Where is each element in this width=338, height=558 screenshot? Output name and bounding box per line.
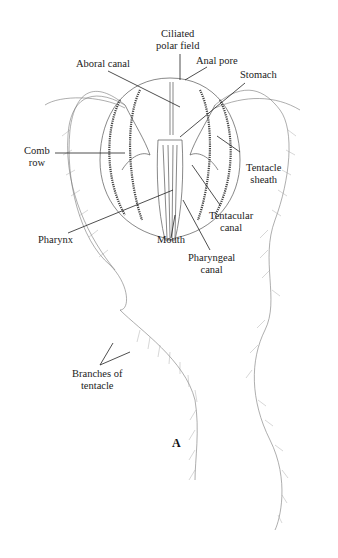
label-line: Tentacular	[209, 210, 253, 222]
right-tentacle	[215, 90, 289, 530]
label-ciliated-polar-field: Ciliated polar field	[156, 28, 199, 52]
label-branches-of-tentacle: Branches of tentacle	[72, 368, 122, 392]
label-line: sheath	[246, 174, 281, 186]
panel-label: A	[172, 436, 181, 451]
label-line: Branches of	[72, 368, 122, 380]
label-stomach: Stomach	[240, 69, 277, 81]
label-comb-row: Comb row	[24, 145, 50, 169]
label-line: Pharyngeal	[188, 252, 235, 264]
label-line: tentacle	[72, 380, 122, 392]
label-line: canal	[188, 264, 235, 276]
ctenophore-diagram: Ciliated polar field Anal pore Aboral ca…	[0, 0, 338, 558]
label-tentacle-sheath: Tentacle sheath	[246, 162, 281, 186]
left-tentacle	[69, 91, 197, 480]
ctenophore-illustration	[0, 0, 338, 558]
label-mouth: Mouth	[157, 234, 185, 246]
label-line: Tentacle	[246, 162, 281, 174]
label-anal-pore: Anal pore	[196, 55, 238, 67]
label-line: Comb	[24, 145, 50, 157]
label-tentacular-canal: Tentacular canal	[209, 210, 253, 234]
label-line: row	[24, 157, 50, 169]
label-pharynx: Pharynx	[38, 234, 73, 246]
label-line: polar field	[156, 40, 199, 52]
label-aboral-canal: Aboral canal	[76, 58, 130, 70]
label-line: canal	[209, 222, 253, 234]
label-line: Ciliated	[156, 28, 199, 40]
label-pharyngeal-canal: Pharyngeal canal	[188, 252, 235, 276]
